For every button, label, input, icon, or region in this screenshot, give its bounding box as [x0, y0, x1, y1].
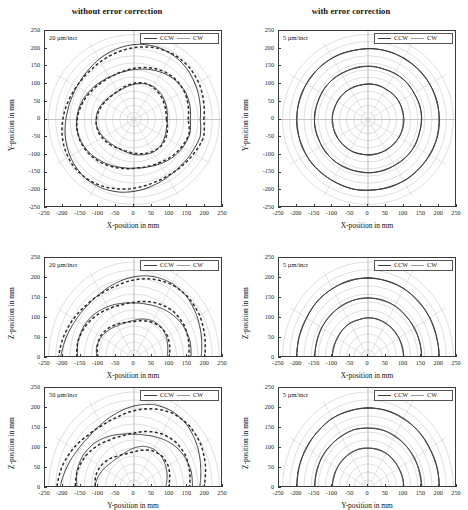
trace-ccw-r100 — [332, 448, 404, 487]
xtick-mark-bottom-right-8 — [420, 484, 421, 487]
annotation-increment-bottom-right: 5 µm/incr — [283, 391, 308, 398]
legend-label-cw: CW — [427, 392, 437, 398]
xtick-mark-bottom-right-1 — [296, 484, 297, 487]
ytick-mark-bottom-right-4 — [278, 407, 281, 408]
xtick-mark-bottom-right-2 — [314, 484, 315, 487]
ytick-label-bottom-right-1: 50 — [246, 464, 274, 470]
ytick-label-bottom-right-5: 250 — [246, 384, 274, 390]
ytick-mark-bottom-right-5 — [278, 387, 281, 388]
trace-cw-r100 — [332, 448, 403, 487]
xtick-mark-bottom-right-0 — [278, 484, 279, 487]
xtick-mark-bottom-right-9 — [438, 484, 439, 487]
legend-label-ccw: CCW — [394, 392, 408, 398]
trace-ccw-r150 — [315, 428, 422, 487]
ytick-mark-bottom-right-3 — [278, 427, 281, 428]
xaxis-label-bottom-left: Y-position in mm — [44, 501, 222, 510]
ytick-mark-bottom-right-0 — [278, 487, 281, 488]
ytick-mark-bottom-right-1 — [278, 467, 281, 468]
xtick-mark-bottom-right-10 — [456, 484, 457, 487]
trace-ccw-r200 — [297, 408, 439, 487]
ytick-mark-bottom-right-2 — [278, 447, 281, 448]
plot-area-bottom-right — [278, 387, 456, 487]
ytick-label-bottom-right-4: 200 — [246, 404, 274, 410]
xtick-label-bottom-right-10: 250 — [444, 490, 468, 496]
trace-cw-r150 — [315, 428, 422, 487]
traces-bottom-right — [279, 388, 456, 487]
ytick-label-bottom-right-2: 100 — [246, 444, 274, 450]
yaxis-label-bottom-right: Z-position in mm — [241, 417, 250, 469]
xtick-mark-bottom-right-3 — [331, 484, 332, 487]
xtick-mark-bottom-right-5 — [367, 484, 368, 487]
legend-swatch-cw — [411, 395, 424, 396]
xtick-mark-bottom-right-6 — [385, 484, 386, 487]
xaxis-label-bottom-right: Y-position in mm — [278, 501, 456, 510]
ytick-label-bottom-right-3: 150 — [246, 424, 274, 430]
xtick-mark-bottom-right-7 — [403, 484, 404, 487]
legend-swatch-ccw — [378, 395, 391, 396]
xtick-mark-bottom-right-4 — [349, 484, 350, 487]
legend-bottom-right[interactable]: CCWCW — [374, 390, 453, 401]
